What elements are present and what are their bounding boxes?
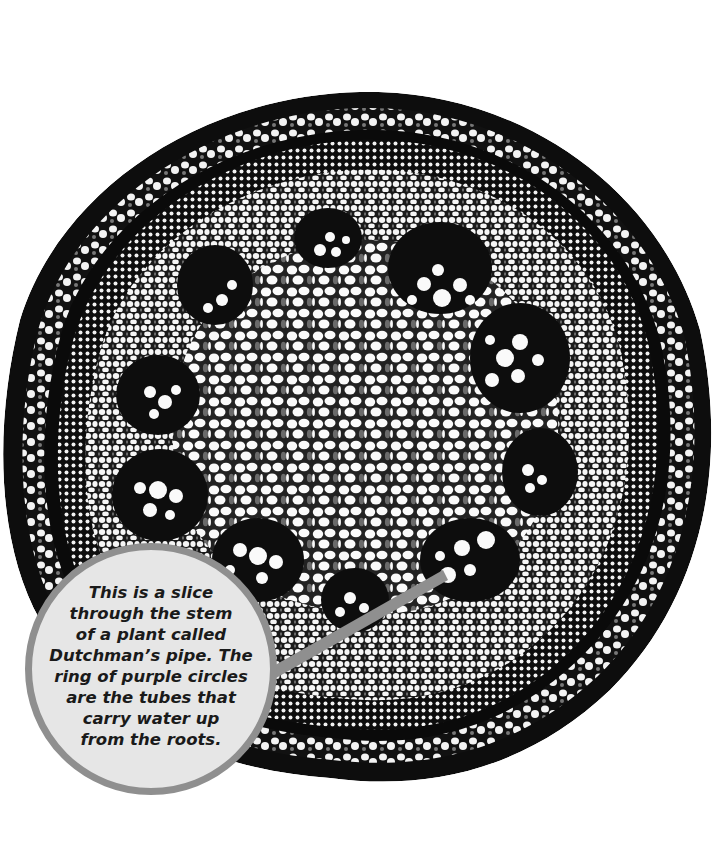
vascular-bundle [112,449,208,541]
vascular-bundle [502,428,578,516]
callout-line: through the stem [36,603,266,624]
vascular-bundle [116,355,200,435]
vascular-bundle [294,208,362,268]
callout-bubble: This is a slice through the stem of a pl… [25,543,277,795]
stem-cross-section-illustration: This is a slice through the stem of a pl… [0,0,715,851]
callout-line: This is a slice [36,582,266,603]
vascular-bundle [177,245,253,325]
callout-line: ring of purple circles [36,666,266,687]
vascular-bundle [470,303,570,413]
callout-line: of a plant called [36,624,266,645]
vascular-bundle [420,518,520,602]
vascular-bundle [388,222,492,314]
callout-line: carry water up [36,708,266,729]
callout-line: from the roots. [36,729,266,750]
callout-line: are the tubes that [36,687,266,708]
callout-text: This is a slice through the stem of a pl… [36,582,266,750]
callout-line: Dutchman’s pipe. The [36,645,266,666]
